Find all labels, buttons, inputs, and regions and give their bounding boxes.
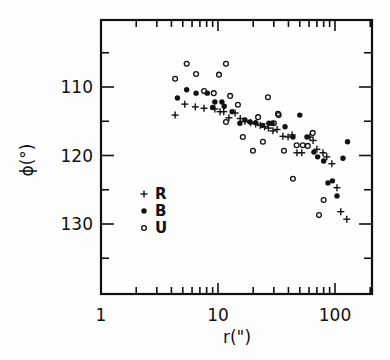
x-axis-title: r(")	[223, 327, 251, 347]
y-tick-label: 130	[61, 214, 93, 234]
series-U	[173, 61, 326, 217]
axis-ticks	[101, 20, 372, 294]
plot-frame	[101, 20, 372, 294]
legend-label: U	[155, 219, 167, 237]
legend-item-B: B	[141, 202, 166, 220]
legend-label: B	[155, 202, 166, 220]
series-B	[175, 87, 351, 199]
legend: RBU	[141, 185, 168, 237]
legend-item-U: U	[142, 219, 168, 237]
y-axis-title: ϕ(°)	[17, 144, 37, 177]
x-tick-label: 10	[207, 305, 229, 325]
legend-label: R	[155, 185, 167, 203]
x-tick-label: 1	[96, 305, 107, 325]
data-points	[172, 61, 351, 222]
scatter-chart: 110100110120130 RBU r(") ϕ(°)	[0, 0, 390, 360]
x-tick-label: 100	[319, 305, 351, 325]
legend-item-R: R	[141, 185, 168, 203]
y-tick-label: 110	[61, 77, 93, 97]
y-tick-label: 120	[61, 146, 93, 166]
